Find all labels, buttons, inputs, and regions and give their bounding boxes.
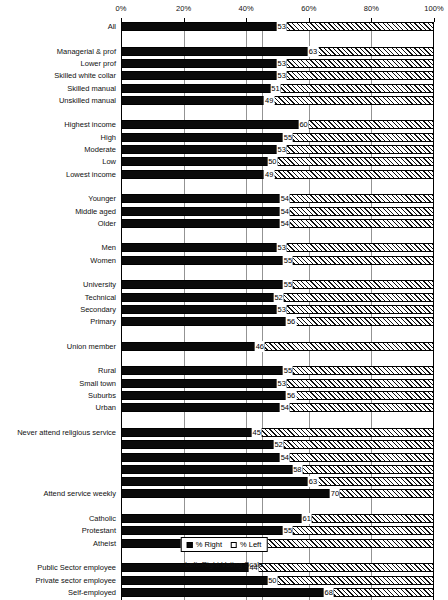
chart-row: 52 (121, 440, 434, 449)
category-label: Middle aged (75, 207, 116, 216)
category-label: Never attend religious service (17, 428, 116, 437)
bar-value-label: 53 (277, 378, 287, 389)
bar-segment-right (121, 576, 278, 585)
chart-row: 55 (121, 280, 434, 289)
bar-segment-right (121, 256, 293, 265)
bar-value-label: 55 (283, 279, 293, 290)
bar-value-label: 56 (286, 316, 296, 327)
bar-segment-right (121, 243, 287, 252)
category-label: Urban (96, 403, 116, 412)
bar-segment-right (121, 280, 293, 289)
x-tick-label: 0% (115, 4, 126, 13)
bar-segment-right (121, 219, 290, 228)
chart-row: 56 (121, 391, 434, 400)
x-tick-label: 20% (176, 4, 191, 13)
category-label: Public Sector employee (37, 563, 116, 572)
chart-row: 54 (121, 194, 434, 203)
chart-row: 44 (121, 563, 434, 572)
bar-value-label: 53 (277, 144, 287, 155)
bar-segment-right (121, 293, 284, 302)
legend-item-right: % Right (187, 540, 222, 549)
bar-value-label: 49 (264, 169, 274, 180)
bar-segment-right (121, 120, 309, 129)
category-label: Lowest income (66, 170, 116, 179)
category-label: Older (98, 219, 116, 228)
chart-row: 58 (121, 465, 434, 474)
bar-value-label: 63 (308, 476, 318, 487)
bar-value-label: 46 (255, 341, 265, 352)
bar-segment-right (121, 477, 318, 486)
bar-value-label: 50 (267, 156, 277, 167)
bar-value-label: 53 (277, 70, 287, 81)
bar-value-label: 61 (302, 513, 312, 524)
legend-item-left: % Left (231, 540, 261, 549)
x-axis-ticks: 0%20%40%60%80%100% (0, 0, 448, 22)
category-label: Men (101, 243, 116, 252)
x-tick-mark (434, 18, 435, 22)
chart-row: 53 (121, 71, 434, 80)
bar-segment-right (121, 170, 274, 179)
chart-row: 50 (121, 576, 434, 585)
category-label: Technical (85, 293, 116, 302)
bar-segment-right (121, 84, 281, 93)
bar-segment-right (121, 207, 290, 216)
category-label: All (108, 22, 116, 31)
category-label: Atheist (93, 539, 116, 548)
bar-value-label: 58 (292, 464, 302, 475)
x-tick-label: 100% (424, 4, 444, 13)
chart-row: 49 (121, 96, 434, 105)
category-label: Managerial & prof (57, 47, 116, 56)
bar-segment-right (121, 391, 296, 400)
bar-value-label: 54 (280, 193, 290, 204)
legend-swatch-right-icon (187, 542, 193, 548)
bar-value-label: 53 (277, 304, 287, 315)
category-label: Unskilled manual (59, 96, 116, 105)
bar-segment-right (121, 133, 293, 142)
category-label: Primary (90, 317, 116, 326)
category-label: Low (102, 157, 116, 166)
chart-row: 54 (121, 403, 434, 412)
bar-segment-right (121, 514, 312, 523)
bar-segment-right (121, 194, 290, 203)
chart-row: 53 (121, 22, 434, 31)
bar-value-label: 55 (283, 132, 293, 143)
plot-area: 5363535351496055535049545454535555525356… (121, 22, 434, 600)
category-label: Small town (79, 379, 116, 388)
category-label: Skilled white collar (54, 71, 116, 80)
bar-value-label: 55 (283, 255, 293, 266)
bar-value-label: 53 (277, 58, 287, 69)
bar-segment-right (121, 526, 293, 535)
bar-value-label: 60 (298, 119, 308, 130)
bar-value-label: 54 (280, 452, 290, 463)
category-label: Union member (67, 342, 116, 351)
chart-row: 54 (121, 207, 434, 216)
bar-segment-right (121, 342, 265, 351)
bar-segment-right (121, 22, 287, 31)
bar-value-label: 51 (270, 83, 280, 94)
bar-value-label: 49 (264, 95, 274, 106)
legend-swatch-left-icon (231, 542, 237, 548)
chart-row: 45 (121, 428, 434, 437)
bar-value-label: 56 (286, 390, 296, 401)
chart-row: 53 (121, 145, 434, 154)
chart-row: 53 (121, 305, 434, 314)
bar-segment-right (121, 59, 287, 68)
bar-segment-right (121, 71, 287, 80)
category-label: University (83, 280, 116, 289)
category-label: Lower prof (81, 59, 116, 68)
chart-row: 51 (121, 84, 434, 93)
chart-row: 55 (121, 526, 434, 535)
bar-value-label: 52 (273, 292, 283, 303)
chart-row: 56 (121, 317, 434, 326)
x-tick-label: 60% (301, 4, 316, 13)
category-label: Moderate (84, 145, 116, 154)
chart-row: 55 (121, 256, 434, 265)
chart-row: 53 (121, 243, 434, 252)
category-label: Younger (88, 194, 116, 203)
bar-value-label: 68 (323, 587, 333, 598)
legend-label-right: % Right (196, 540, 222, 549)
bar-segment-right (121, 588, 334, 597)
chart-row: 55 (121, 366, 434, 375)
bar-value-label: 53 (277, 242, 287, 253)
chart-row: 68 (121, 588, 434, 597)
